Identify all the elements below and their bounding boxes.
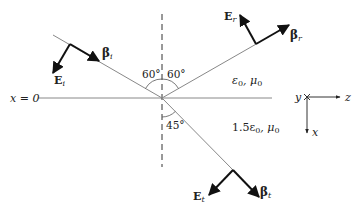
transmitted-ray xyxy=(162,98,233,170)
wave-diagram: x = 0 60° 60° 45° βi Ei βr Er βt Et ε0, … xyxy=(0,0,362,214)
E-t-label: Et xyxy=(193,190,205,204)
beta-r-arrow xyxy=(256,25,289,44)
incident-vectors xyxy=(53,44,99,73)
E-i-label: Ei xyxy=(54,74,65,88)
boundary-label: x = 0 xyxy=(10,92,39,105)
transmitted-angle-label: 45° xyxy=(166,119,185,131)
beta-t-label: βt xyxy=(260,185,272,200)
beta-i-label: βi xyxy=(102,46,113,61)
E-r-label: Er xyxy=(224,10,237,24)
y-axis-label: y xyxy=(294,91,302,104)
lower-medium-label: 1.5ε0, μ0 xyxy=(232,121,280,135)
beta-t-arrow xyxy=(233,170,259,197)
E-r-arrow xyxy=(240,15,256,44)
transmitted-vectors xyxy=(209,170,259,197)
E-i-arrow xyxy=(53,44,70,73)
x-axis-label: x xyxy=(312,126,319,139)
coordinate-axes xyxy=(304,94,340,133)
z-axis-label: z xyxy=(344,91,351,104)
reflected-angle-arc xyxy=(162,79,179,89)
incident-angle-label: 60° xyxy=(142,68,161,80)
E-t-arrow xyxy=(209,170,233,195)
transmitted-angle-arc xyxy=(162,111,175,117)
incident-angle-arc xyxy=(146,79,163,89)
reflected-angle-label: 60° xyxy=(167,68,186,80)
upper-medium-label: ε0, μ0 xyxy=(232,74,262,88)
beta-i-arrow xyxy=(70,44,99,61)
beta-r-label: βr xyxy=(290,28,303,43)
reflected-vectors xyxy=(240,15,289,44)
